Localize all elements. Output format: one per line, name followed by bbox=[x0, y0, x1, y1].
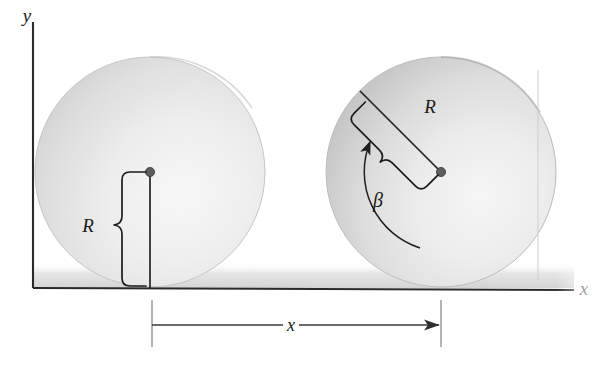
beta-angle-label: β bbox=[372, 189, 383, 212]
right-edge-fade bbox=[556, 0, 598, 300]
distance-dimension-label: x bbox=[286, 315, 295, 335]
y-axis-label: y bbox=[21, 5, 32, 26]
left-radius-label: R bbox=[81, 215, 94, 236]
x-axis-line bbox=[33, 288, 574, 290]
right-radius-label: R bbox=[423, 96, 436, 117]
physics-figure: R R β y x bbox=[0, 0, 598, 368]
distance-dimension bbox=[152, 300, 441, 347]
figure-canvas: R R β y x bbox=[0, 0, 598, 368]
